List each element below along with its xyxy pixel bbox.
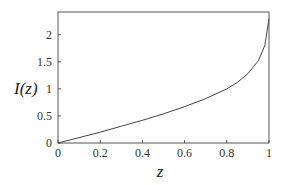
plot-frame bbox=[58, 12, 269, 143]
y-tick-label: 2 bbox=[46, 28, 52, 42]
x-axis-label: z bbox=[156, 162, 164, 181]
x-tick-label: 0.6 bbox=[177, 146, 192, 160]
x-tick-label: 0.4 bbox=[135, 146, 150, 160]
x-tick-label: 1 bbox=[266, 146, 272, 160]
x-tick-label: 0.2 bbox=[93, 146, 108, 160]
x-tick-label: 0.8 bbox=[219, 146, 234, 160]
chart: 00.511.52 00.20.40.60.81 I(z) z bbox=[0, 0, 285, 185]
y-tick-label: 0 bbox=[46, 136, 52, 150]
x-tick-label: 0 bbox=[55, 146, 61, 160]
data-line bbox=[58, 19, 269, 144]
y-tick-label: 1 bbox=[46, 82, 52, 96]
y-tick-label: 1.5 bbox=[37, 55, 52, 69]
y-axis-ticks: 00.511.52 bbox=[37, 28, 61, 150]
y-axis-label: I(z) bbox=[13, 79, 38, 98]
y-tick-label: 0.5 bbox=[37, 109, 52, 123]
